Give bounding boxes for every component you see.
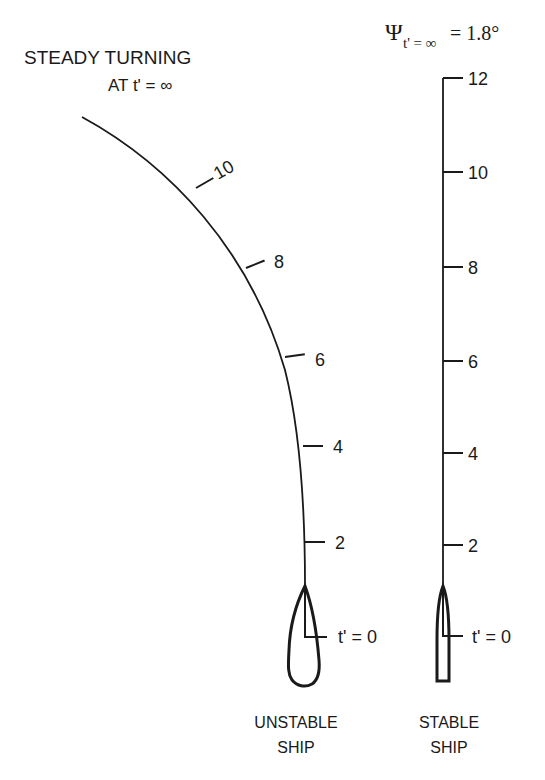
unstable-tick-label: 2 — [335, 533, 345, 553]
psi-value: = 1.8° — [450, 22, 499, 44]
unstable-tick-label: 4 — [333, 437, 343, 457]
stable-tick-label: 6 — [468, 352, 478, 372]
unstable-tick-label: 6 — [315, 350, 325, 370]
unstable-tick — [246, 261, 265, 268]
stable-caption-line2: SHIP — [430, 739, 467, 756]
stable-tick-label: 2 — [468, 536, 478, 556]
psi-label: Ψ t' = ∞ = 1.8° — [385, 19, 499, 51]
psi-subscript: t' = ∞ — [403, 35, 437, 51]
stable-ticks: 24681012 — [443, 69, 488, 556]
stable-tick-label: 12 — [468, 69, 488, 89]
unstable-start-label: t' = 0 — [338, 627, 377, 647]
stable-caption-line1: STABLE — [419, 714, 479, 731]
title-line1: STEADY TURNING — [24, 47, 191, 68]
unstable-tick — [285, 354, 305, 357]
stable-tick-label: 8 — [468, 258, 478, 278]
unstable-caption-line2: SHIP — [277, 739, 314, 756]
unstable-tick-label: 8 — [274, 252, 284, 272]
psi-symbol: Ψ — [385, 19, 403, 45]
title-line2: AT t' = ∞ — [108, 76, 172, 95]
stable-tick-label: 10 — [468, 163, 488, 183]
stable-start-label: t' = 0 — [472, 627, 511, 647]
stable-tick-label: 4 — [468, 444, 478, 464]
unstable-trajectory — [82, 117, 305, 585]
unstable-caption-line1: UNSTABLE — [254, 714, 337, 731]
unstable-tick-label: 10 — [210, 156, 237, 183]
unstable-ticks: 246810 — [196, 156, 345, 553]
ship-turning-diagram: STEADY TURNING AT t' = ∞ Ψ t' = ∞ = 1.8°… — [0, 0, 545, 780]
unstable-tick — [196, 178, 213, 188]
